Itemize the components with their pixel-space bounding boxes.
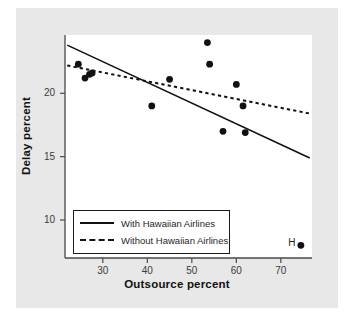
legend-label-with: With Hawaiian Airlines [121, 218, 215, 229]
data-point [89, 70, 96, 77]
chart-figure: Delay percent Outsource percent 10152030… [0, 0, 354, 320]
legend-entry-without: Without Hawaiian Airlines [80, 232, 228, 248]
legend-entry-with: With Hawaiian Airlines [80, 215, 215, 231]
data-point [206, 61, 213, 68]
data-point [148, 103, 155, 110]
data-point [297, 242, 304, 249]
data-point [240, 103, 247, 110]
data-point [166, 76, 173, 83]
x-tick-label: 30 [88, 265, 118, 276]
legend-label-without: Without Hawaiian Airlines [121, 235, 228, 246]
solid-line-swatch-icon [80, 218, 114, 228]
trendline-with-hawaiian [67, 45, 310, 158]
x-axis-ticks [103, 258, 281, 263]
x-axis-label: Outsource percent [0, 278, 354, 290]
data-point [233, 81, 240, 88]
trend-lines [67, 45, 310, 158]
y-tick-label: 10 [29, 214, 55, 225]
x-tick-label: 70 [266, 265, 296, 276]
data-point [204, 39, 211, 46]
x-tick-label: 50 [177, 265, 207, 276]
dashed-line-swatch-icon [80, 235, 114, 245]
y-axis-ticks [60, 93, 65, 220]
chart-legend: With Hawaiian Airlines Without Hawaiian … [73, 210, 230, 254]
x-tick-label: 60 [221, 265, 251, 276]
trendline-without-hawaiian [67, 65, 310, 113]
h-annotation-label: H [288, 237, 295, 248]
data-point [75, 61, 82, 68]
x-tick-label: 40 [132, 265, 162, 276]
y-tick-label: 20 [29, 87, 55, 98]
data-point [242, 129, 249, 136]
y-tick-label: 15 [29, 151, 55, 162]
data-point [220, 128, 227, 135]
